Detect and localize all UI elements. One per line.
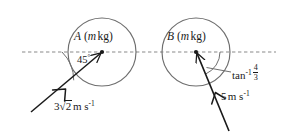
angle-label-a-degree-symbol: ° <box>88 53 91 61</box>
particle-label-b-letter: B <box>167 30 174 42</box>
angle-label-a: 45° <box>77 54 90 65</box>
particle-label-a-letter: A <box>74 30 81 42</box>
speed-label-a-exponent: -1 <box>89 99 95 108</box>
speed-label-b-value: 5 <box>221 90 227 102</box>
speed-label-b: 5m s-1 <box>221 90 250 102</box>
particle-label-a: A (mkg) <box>74 31 113 43</box>
particle-label-a-mass: m <box>88 30 96 42</box>
angle-label-b-denominator: 3 <box>253 73 258 81</box>
speed-label-a-radicand: 2 <box>65 100 72 113</box>
angle-label-b-fraction: 43 <box>253 64 258 82</box>
speed-label-a-units: m s <box>73 100 89 112</box>
speed-label-b-exponent: -1 <box>243 89 249 98</box>
angle-label-b-function: tan <box>232 69 245 81</box>
angle-label-b: tan-143 <box>232 64 258 82</box>
speed-label-b-units: m s <box>228 90 244 102</box>
angle-label-a-value: 45 <box>77 54 88 65</box>
mechanics-collision-diagram: A (mkg) B (mkg) 45° 3√2m s-1 5m s-1 tan-… <box>0 0 290 134</box>
particle-label-a-unit: kg <box>97 30 109 42</box>
angle-arc-b <box>206 52 220 74</box>
particle-label-b-unit: kg <box>190 30 202 42</box>
particle-label-b-mass: m <box>181 30 189 42</box>
speed-label-a: 3√2m s-1 <box>54 100 95 113</box>
angle-label-b-exponent: -1 <box>245 68 251 77</box>
particle-label-b: B (mkg) <box>167 31 206 43</box>
